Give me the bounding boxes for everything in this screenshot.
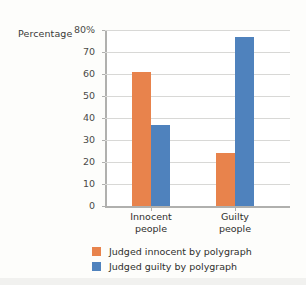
category-label-line: Innocent <box>111 211 191 223</box>
y-tick-label: 0 <box>89 201 95 211</box>
legend-color-swatch <box>92 262 101 271</box>
y-tick-mark <box>102 140 105 141</box>
x-axis-category-label: Innocentpeople <box>111 211 191 234</box>
legend-label: Judged guilty by polygraph <box>109 261 237 272</box>
x-axis-line <box>105 206 290 208</box>
y-tick-mark <box>102 206 105 207</box>
chart-legend: Judged innocent by polygraphJudged guilt… <box>92 244 302 274</box>
plot-area <box>105 30 290 207</box>
y-tick-mark <box>102 52 105 53</box>
y-tick-mark <box>102 74 105 75</box>
bar <box>151 125 170 206</box>
category-label-line: Guilty <box>195 211 275 223</box>
y-tick-mark <box>102 162 105 163</box>
y-tick-label: 50 <box>83 91 95 101</box>
y-tick-label: 70 <box>83 47 95 57</box>
bar <box>235 37 254 206</box>
y-tick-mark <box>102 118 105 119</box>
legend-item: Judged guilty by polygraph <box>92 259 302 274</box>
x-axis-category-labels: InnocentpeopleGuiltypeople <box>105 211 290 241</box>
category-label-line: people <box>111 223 191 235</box>
y-tick-mark <box>102 30 105 31</box>
gridline <box>105 30 290 31</box>
x-axis-category-label: Guiltypeople <box>195 211 275 234</box>
gridline <box>105 52 290 53</box>
category-label-line: people <box>195 223 275 235</box>
y-axis-tick-labels: 01020304050607080% <box>64 30 100 207</box>
y-tick-label: 40 <box>83 113 95 123</box>
legend-label: Judged innocent by polygraph <box>109 246 252 257</box>
bar-chart-figure: Percentage 01020304050607080% Innocentpe… <box>0 0 306 285</box>
legend-item: Judged innocent by polygraph <box>92 244 302 259</box>
y-tick-label: 60 <box>83 69 95 79</box>
bar <box>132 72 151 206</box>
y-tick-label: 30 <box>83 135 95 145</box>
page-edge <box>0 278 306 285</box>
y-tick-mark <box>102 184 105 185</box>
bar <box>216 153 235 206</box>
y-tick-label: 20 <box>83 157 95 167</box>
y-tick-label: 10 <box>83 179 95 189</box>
y-tick-label: 80% <box>74 25 95 35</box>
legend-color-swatch <box>92 247 101 256</box>
y-tick-mark <box>102 96 105 97</box>
